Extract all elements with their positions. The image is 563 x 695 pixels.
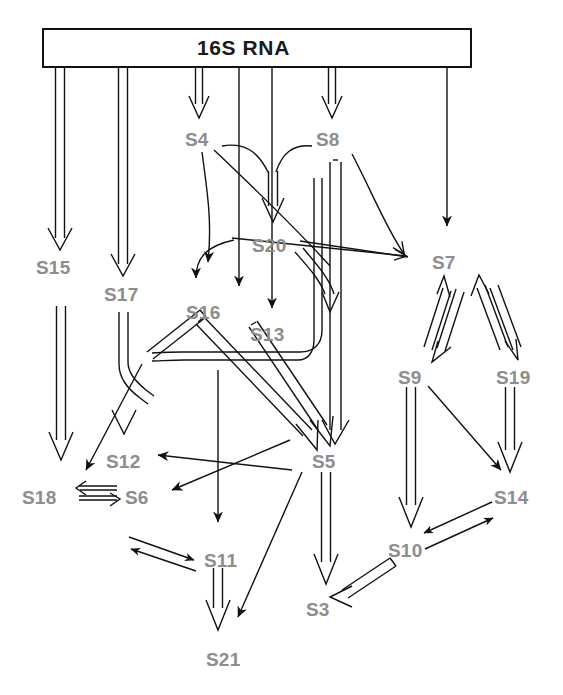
edge-rna-s15 [48,68,72,250]
node-label-s16[interactable]: S16 [186,303,220,322]
edge-s17-s12 [112,312,154,434]
edge-s4-s16 [202,152,210,262]
edge-s9-s14 [428,386,501,470]
edge-s7-s9 [424,276,464,362]
assembly-map-diagram: 16S RNA [0,0,563,695]
node-label-s19[interactable]: S19 [496,368,530,387]
node-label-s17[interactable]: S17 [104,285,138,304]
edge-s11-s21 [206,568,230,630]
edge-s10-s3 [330,558,396,607]
node-label-s21[interactable]: S21 [206,650,240,669]
node-label-s4[interactable]: S4 [185,130,209,149]
edge-s18-s6 [76,481,120,506]
node-label-s8[interactable]: S8 [316,130,340,149]
edge-s5-s21 [238,472,302,617]
node-label-s5[interactable]: S5 [312,452,336,471]
node-label-s11[interactable]: S11 [204,551,237,570]
node-label-s9[interactable]: S9 [398,368,422,387]
edge-s9-s10 [399,387,423,527]
edge-s5-s3 [314,472,338,584]
edge-s20-s7-b [300,241,408,257]
node-label-s15[interactable]: S15 [36,258,70,277]
edge-s5-s6 [172,440,290,490]
node-label-s18[interactable]: S18 [22,488,56,507]
edge-rna-s17 [111,68,135,276]
edge-s19-s14 [498,387,522,472]
edge-s10-s14 [424,502,493,549]
node-label-s13[interactable]: S13 [250,325,284,344]
connector-layer [0,0,563,695]
node-label-s3[interactable]: S3 [306,600,330,619]
node-label-s12[interactable]: S12 [106,452,140,471]
node-label-s7[interactable]: S7 [432,253,456,272]
node-label-s10[interactable]: S10 [388,541,422,560]
edge-s8-s7 [352,154,404,254]
edge-s20-s13 [295,248,339,312]
node-label-s20[interactable]: S20 [252,236,286,255]
edge-s20-s16 [196,240,234,278]
edge-s4-s20 [222,145,268,172]
edge-s6-s11 [129,537,196,571]
node-label-s14[interactable]: S14 [494,488,528,507]
edge-s7-s19 [471,275,521,360]
node-label-s6[interactable]: S6 [125,488,149,507]
edge-bridge-bar [152,178,322,361]
edge-rna-s8 [322,68,342,118]
edge-s15-s18 [49,306,73,460]
edge-s8-s20 [276,146,312,172]
edge-rna-s4 [189,68,209,118]
